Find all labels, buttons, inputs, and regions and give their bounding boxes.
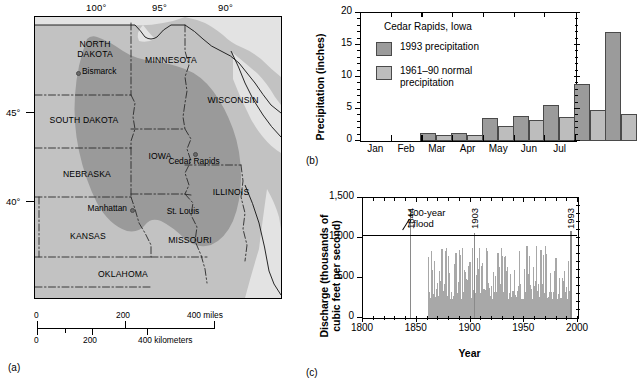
c-yminor-right (576, 229, 580, 230)
c-xtick-top-1900 (470, 197, 471, 202)
c-yminor-right (576, 285, 580, 286)
panel-tag-a: (a) (8, 362, 20, 373)
b-xtick-May (514, 135, 515, 141)
c-xminor-tick-top (534, 197, 535, 201)
b-yminor-tick-right (575, 114, 579, 115)
b-yminor-tick (357, 134, 361, 135)
b-yminor-tick-right (575, 121, 579, 122)
bar-normal-Jun (590, 110, 606, 141)
c-xminor-tick (459, 316, 460, 320)
bar-normal-May (559, 117, 575, 141)
peak-year-label-1993: 1993 (565, 207, 576, 228)
b-yminor-tick-right (575, 89, 579, 90)
b-yminor-tick-right (575, 31, 579, 32)
c-xminor-tick-top (566, 197, 567, 201)
c-xminor-tick-top (427, 197, 428, 201)
b-yminor-tick (357, 18, 361, 19)
c-xminor-tick (502, 316, 503, 320)
b-xtick-Jan (391, 135, 392, 141)
b-ytick-right-5 (574, 108, 580, 109)
b-yminor-tick-right (575, 127, 579, 128)
b-xtick-label-Jul: Jul (538, 143, 582, 154)
peak-year-label-1903: 1903 (469, 207, 480, 228)
c-yminor-right (576, 245, 580, 246)
b-ytick-right-15 (574, 44, 580, 45)
c-ytick-label-1500: 1,500 (320, 190, 354, 201)
b-yminor-tick-right (575, 18, 579, 19)
b-ytick-15 (355, 44, 361, 45)
b-yminor-tick (357, 82, 361, 83)
c-xminor-tick-top (513, 197, 514, 201)
bar-normal-Jan (436, 135, 452, 141)
c-xminor-tick (513, 316, 514, 320)
state-label-minnesota: MINNESOTA (135, 55, 207, 65)
c-xminor-tick-top (405, 197, 406, 201)
c-yminor-right (576, 309, 580, 310)
scale-tick-k0 (37, 328, 38, 335)
b-yminor-tick-right (575, 50, 579, 51)
bar-normal-Feb (467, 135, 483, 141)
panel-tag-c: (c) (306, 367, 318, 378)
c-xminor-tick (373, 316, 374, 320)
b-ytick-right-20 (574, 12, 580, 13)
b-xtick-Mar (452, 135, 453, 141)
b-yminor-tick (357, 31, 361, 32)
legend-label-1993: 1993 precipitation (400, 41, 479, 53)
hundred-year-flood-line (362, 235, 577, 236)
b-yminor-tick (357, 63, 361, 64)
scale-tick-k100 (65, 328, 66, 333)
c-xminor-tick (480, 316, 481, 320)
b-yminor-tick (357, 102, 361, 103)
latitude-label-40: 40° (6, 196, 20, 207)
c-yminor-right (576, 261, 580, 262)
scale-tick-k400 (147, 328, 148, 335)
longitude-label-90: 90° (218, 2, 233, 13)
scale-km-400: 400 kilometers (138, 335, 192, 345)
city-label-st-louis: St. Louis (159, 207, 207, 217)
b-yminor-tick (357, 57, 361, 58)
c-ytick-1000 (357, 237, 363, 238)
bar-normal-Jul (621, 114, 637, 141)
state-label-nebraska: NEBRASKA (51, 169, 123, 179)
scale-axis-line (37, 328, 215, 329)
b-top-tick (483, 12, 484, 17)
bar-1993-Apr (513, 116, 529, 141)
b-yminor-tick (357, 70, 361, 71)
longitude-label-95: 95° (152, 2, 167, 13)
panel-tag-b: (b) (306, 155, 318, 166)
c-xtick-top-1800 (362, 197, 363, 202)
c-ytick-label-1000: 1,000 (320, 230, 354, 241)
b-top-tick (452, 12, 453, 17)
b-yminor-tick (357, 95, 361, 96)
b-xtick-Apr (483, 135, 484, 141)
peak-line-1993 (570, 231, 571, 318)
b-yminor-tick (357, 50, 361, 51)
c-xminor-tick (384, 316, 385, 320)
c-xtick-top-2000 (577, 197, 578, 202)
bar-1993-Jun (574, 84, 590, 141)
c-xminor-tick-top (545, 197, 546, 201)
b-top-tick (544, 12, 545, 17)
b-yminor-tick (357, 25, 361, 26)
b-ytick-0 (355, 140, 361, 141)
c-xminor-tick-top (448, 197, 449, 201)
c-yminor-right (576, 269, 580, 270)
c-xtick-label-1950: 1950 (501, 322, 545, 333)
c-xtick-label-1850: 1850 (394, 322, 438, 333)
state-label-north-dakota: NORTH DAKOTA (63, 39, 127, 59)
latitude-label-45: 45° (6, 107, 20, 118)
c-xminor-tick (394, 316, 395, 320)
b-yminor-tick (357, 114, 361, 115)
scale-tick-k200 (92, 328, 93, 335)
c-xminor-tick (427, 316, 428, 320)
bar-normal-Apr (529, 120, 545, 141)
state-label-wisconsin: WISCONSIN (197, 95, 269, 105)
c-xminor-tick-top (459, 197, 460, 201)
c-xtick-label-1900: 1900 (448, 322, 492, 333)
scale-tick-m200 (125, 321, 126, 329)
scale-tick-m400 (214, 321, 215, 329)
b-top-tick (514, 12, 515, 17)
c-xminor-tick-top (384, 197, 385, 201)
b-ytick-10 (355, 76, 361, 77)
map-canvas[interactable]: NORTH DAKOTA MINNESOTA WISCONSIN SOUTH D… (34, 16, 282, 299)
